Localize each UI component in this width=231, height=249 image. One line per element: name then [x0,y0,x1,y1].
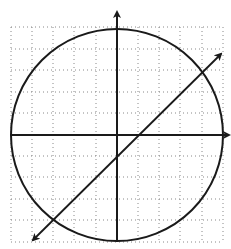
line-y-equals-x-minus-1 [33,54,221,240]
circle-line-diagram [0,0,231,249]
